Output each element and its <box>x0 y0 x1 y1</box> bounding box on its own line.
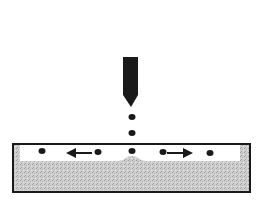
surface-droplet <box>95 149 102 155</box>
falling-droplet <box>129 114 136 120</box>
droplet-impact-diagram <box>0 0 267 201</box>
surface-droplet <box>39 148 46 154</box>
surface-droplet <box>207 150 214 156</box>
impact-droplet <box>129 148 136 154</box>
nozzle-icon <box>123 57 138 107</box>
falling-droplet <box>129 130 136 136</box>
surface-droplet <box>160 149 167 155</box>
